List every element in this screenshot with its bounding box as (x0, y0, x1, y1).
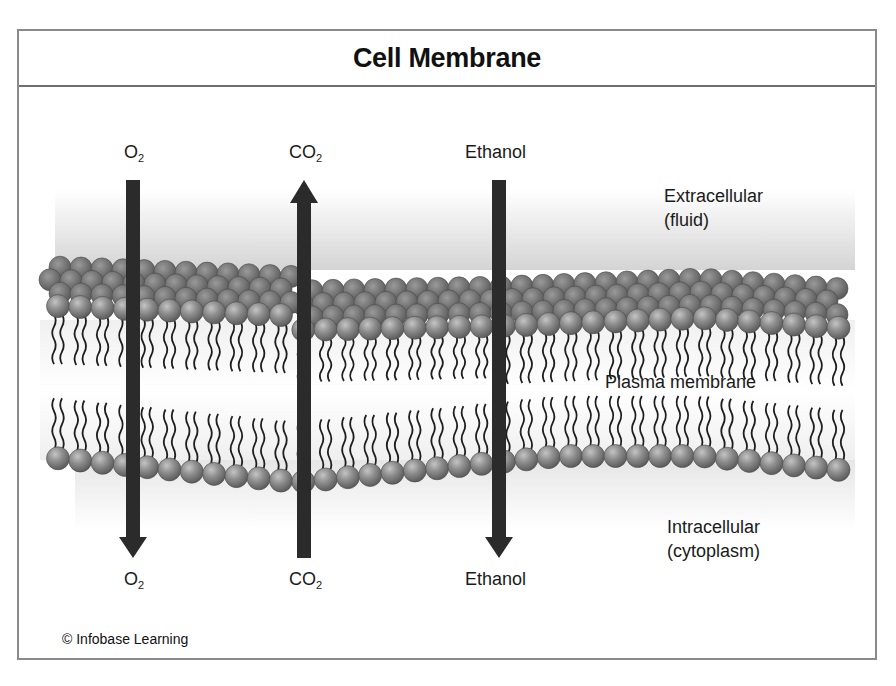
co2-bottom-label: CO2 (289, 567, 322, 597)
intracellular-label: Intracellular (cytoplasm) (667, 515, 760, 563)
co2-top-label: CO2 (289, 140, 322, 170)
o2-top-label: O2 (124, 140, 144, 170)
ethanol-bottom-label: Ethanol (465, 567, 526, 597)
extracellular-label: Extracellular (fluid) (664, 184, 763, 232)
copyright-credit: © Infobase Learning (62, 631, 188, 647)
ethanol-top-label: Ethanol (465, 140, 526, 170)
plasma-membrane-label: Plasma membrane (605, 370, 756, 394)
o2-bottom-label: O2 (124, 567, 144, 597)
